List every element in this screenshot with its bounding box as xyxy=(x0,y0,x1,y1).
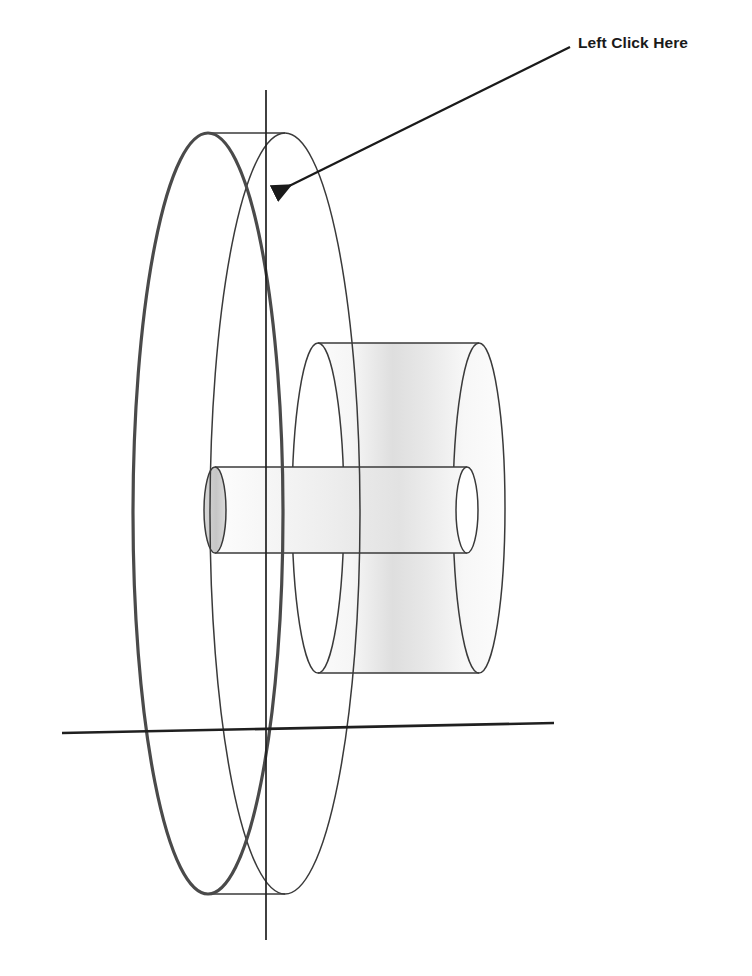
shaft-back-end-cap xyxy=(456,467,478,553)
cad-wireframe-scene xyxy=(0,0,752,976)
horizontal-centerline-axis xyxy=(62,723,554,733)
shaft-cylinder-body-shade xyxy=(215,467,478,553)
drawing-canvas: Left Click Here xyxy=(0,0,752,976)
shaft-cylinder xyxy=(204,467,478,553)
annotation-label: Left Click Here xyxy=(578,34,688,52)
shaft-front-end-cap xyxy=(204,467,226,553)
callout-arrow-line xyxy=(277,47,570,192)
annotation-arrow xyxy=(277,47,570,192)
